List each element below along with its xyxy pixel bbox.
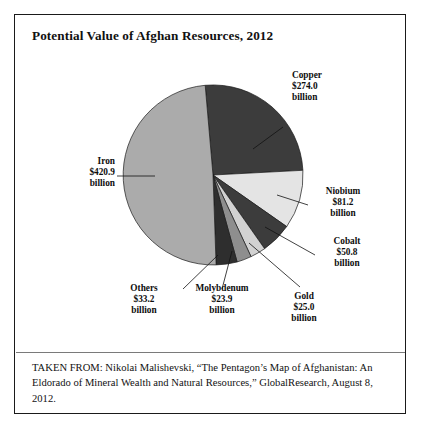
pie-chart-plot-area: Copper $274.0 billion Iron $420.9 billio… bbox=[15, 15, 407, 353]
pie-label-molybdenum-unit: billion bbox=[173, 305, 271, 316]
pie-label-copper-value: $274.0 bbox=[292, 81, 322, 92]
pie-label-gold-value: $25.0 bbox=[277, 302, 331, 313]
pie-label-cobalt-value: $50.8 bbox=[319, 247, 375, 258]
caption-divider bbox=[16, 352, 405, 353]
pie-label-cobalt-name: Cobalt bbox=[319, 236, 375, 247]
pie-label-others-unit: billion bbox=[115, 305, 173, 316]
pie-label-molybdenum: Molybdenum $23.9 billion bbox=[173, 283, 271, 317]
pie-label-gold: Gold $25.0 billion bbox=[277, 291, 331, 325]
pie-label-copper-unit: billion bbox=[292, 92, 322, 103]
pie-label-niobium-name: Niobium bbox=[312, 186, 374, 197]
pie-label-iron-name: Iron bbox=[51, 156, 115, 167]
pie-label-others: Others $33.2 billion bbox=[115, 283, 173, 317]
pie-label-others-value: $33.2 bbox=[115, 294, 173, 305]
source-caption: TAKEN FROM: Nikolai Malishevski, “The Pe… bbox=[32, 360, 390, 406]
pie-label-copper-name: Copper bbox=[292, 70, 322, 81]
figure-frame: Potential Value of Afghan Resources, 201… bbox=[14, 14, 406, 414]
pie-label-cobalt-unit: billion bbox=[319, 258, 375, 269]
leader-line-gold bbox=[249, 243, 300, 287]
pie-label-gold-unit: billion bbox=[277, 313, 331, 324]
pie-label-molybdenum-name: Molybdenum bbox=[173, 283, 271, 294]
pie-label-niobium-unit: billion bbox=[312, 208, 374, 219]
pie-label-gold-name: Gold bbox=[277, 291, 331, 302]
pie-label-cobalt: Cobalt $50.8 billion bbox=[319, 236, 375, 270]
pie-label-iron-unit: billion bbox=[51, 178, 115, 189]
pie-label-others-name: Others bbox=[115, 283, 173, 294]
pie-label-iron: Iron $420.9 billion bbox=[51, 156, 115, 190]
pie-label-iron-value: $420.9 bbox=[51, 167, 115, 178]
pie-label-molybdenum-value: $23.9 bbox=[173, 294, 271, 305]
pie-slice-iron bbox=[123, 85, 216, 265]
pie-label-copper: Copper $274.0 billion bbox=[292, 70, 322, 104]
pie-label-niobium: Niobium $81.2 billion bbox=[312, 186, 374, 220]
pie-label-niobium-value: $81.2 bbox=[312, 197, 374, 208]
pie-slice-copper bbox=[205, 85, 303, 175]
